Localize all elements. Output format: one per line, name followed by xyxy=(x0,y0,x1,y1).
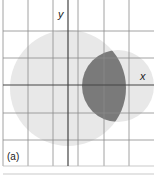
x-axis-label: x xyxy=(139,70,146,82)
shapes xyxy=(10,30,154,146)
panel-label: (a) xyxy=(7,151,19,162)
venn-diagram: y x (a) xyxy=(0,0,154,177)
y-axis-label: y xyxy=(57,8,65,20)
